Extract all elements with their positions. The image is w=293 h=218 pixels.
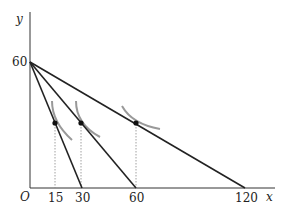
x-tick-120: 120	[235, 191, 258, 205]
x-tick-60: 60	[129, 191, 144, 205]
tangency-point-2	[78, 120, 83, 125]
indifference-curve-3	[122, 106, 160, 129]
chart: y 60 O 15 30 60 120 x	[0, 0, 293, 218]
y-axis-label: y	[15, 12, 23, 26]
x-axis-label: x	[266, 190, 273, 204]
y-tick-60: 60	[12, 55, 27, 69]
x-tick-30: 30	[75, 191, 90, 205]
x-tick-15: 15	[48, 191, 63, 205]
tangency-point-3	[133, 120, 138, 125]
origin-label: O	[20, 190, 30, 204]
tangency-point-1	[52, 120, 57, 125]
budget-line-60	[30, 62, 136, 188]
